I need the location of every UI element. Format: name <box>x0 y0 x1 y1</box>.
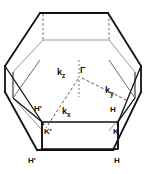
point-label-k-prime-front: K′ <box>44 128 52 136</box>
outer-edge-lower-left <box>5 92 37 150</box>
axis-kx-dashed-line <box>46 79 78 128</box>
axis-label-kz-subscript: z <box>62 72 65 79</box>
back-edge-upper-right <box>109 40 135 72</box>
point-label-h-prime-left: H′ <box>34 105 42 113</box>
front-bottom-rectangle-face <box>42 122 118 149</box>
back-edge-upper-left <box>13 40 43 72</box>
axis-label-kx: kx <box>62 107 71 118</box>
axis-label-kx-subscript: x <box>67 111 71 118</box>
outer-edge-upper-left <box>5 13 40 66</box>
axis-label-ky-subscript: y <box>110 90 114 97</box>
point-label-k-front: K <box>113 128 119 136</box>
point-label-h-right: H <box>110 106 116 114</box>
point-label-h-bottom: H <box>114 157 120 165</box>
outer-edge-upper-right <box>108 13 141 66</box>
point-label-h-prime-bottom: H′ <box>28 157 36 165</box>
brillouin-zone-drawing <box>0 0 146 174</box>
mid-edge-left-ascending <box>13 60 40 98</box>
axis-label-kz: kz <box>57 68 65 79</box>
axis-label-ky: ky <box>105 86 114 97</box>
brillouin-zone-figure: kz Γ ky kx H′ H K′ K H′ H <box>0 0 146 174</box>
mid-edge-left-descending <box>5 66 44 125</box>
gamma-point-label: Γ <box>80 66 85 75</box>
